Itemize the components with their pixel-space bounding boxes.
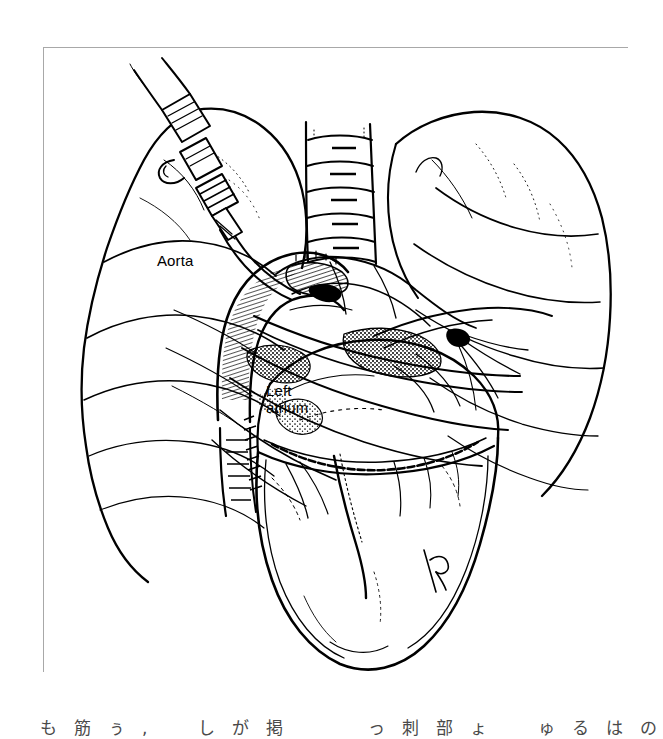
caption-text: も筋ぅ, しが掲 っ刺部ょ ゅるはの	[40, 714, 640, 739]
label-aorta: Aorta	[157, 252, 193, 269]
caption-strip: も筋ぅ, しが掲 っ刺部ょ ゅるはの	[0, 712, 663, 739]
figure-frame: Aorta Left atrium	[43, 47, 628, 672]
label-left-atrium: Left atrium	[266, 382, 308, 416]
illustration-artwork	[44, 48, 629, 673]
anatomy-line-drawing	[44, 48, 629, 673]
